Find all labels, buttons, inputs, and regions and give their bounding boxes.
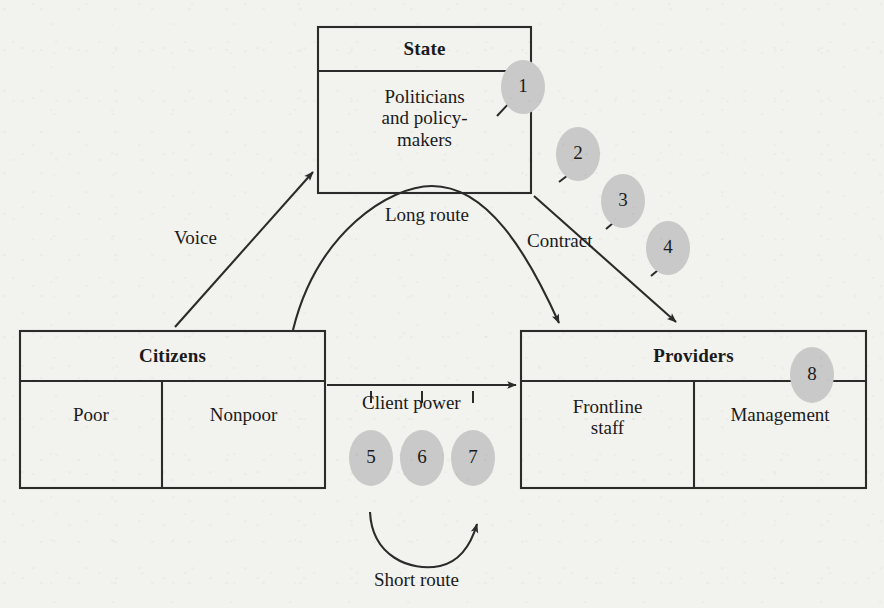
client-power-label: Client power xyxy=(362,392,461,414)
badge-2-label: 2 xyxy=(561,142,595,164)
badge-8-label: 8 xyxy=(795,363,829,385)
state-cell-politicians: Politicians and policy- makers xyxy=(318,86,531,150)
citizens-box-title: Citizens xyxy=(20,345,325,366)
long-route-label: Long route xyxy=(385,204,469,226)
voice-arrow xyxy=(175,172,313,327)
badge-5-label: 5 xyxy=(354,446,388,468)
badge-7-label: 7 xyxy=(456,446,490,468)
citizens-cell-poor: Poor xyxy=(20,404,162,425)
contract-label: Contract xyxy=(527,230,592,252)
providers-cell-management: Management xyxy=(694,404,866,425)
voice-label: Voice xyxy=(174,227,217,249)
diagram-canvas: State Politicians and policy- makers Cit… xyxy=(0,0,884,608)
state-box-title: State xyxy=(318,38,531,59)
providers-cell-frontline-staff: Frontline staff xyxy=(521,396,694,439)
citizens-cell-nonpoor: Nonpoor xyxy=(162,404,325,425)
short-route-label: Short route xyxy=(374,569,459,591)
badge-4-label: 4 xyxy=(651,236,685,258)
badge-6-label: 6 xyxy=(405,446,439,468)
badge-1-label: 1 xyxy=(506,75,540,97)
short-route-arrow xyxy=(370,512,477,567)
badge-3-label: 3 xyxy=(606,189,640,211)
